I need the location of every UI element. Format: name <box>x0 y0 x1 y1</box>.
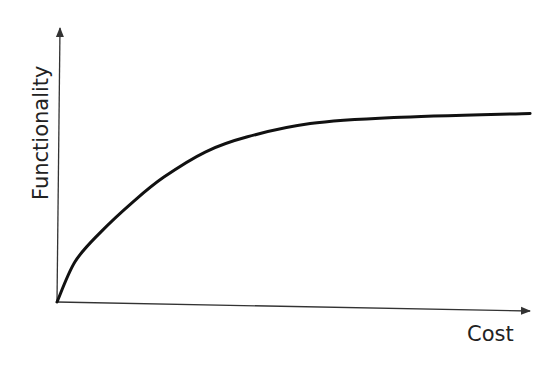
x-axis-label: Cost <box>467 322 514 346</box>
chart: Cost Functionality <box>0 0 559 369</box>
x-axis <box>57 302 530 311</box>
y-axis-label: Functionality <box>29 65 53 200</box>
series-layer <box>57 114 530 303</box>
series-line-0 <box>57 114 530 303</box>
y-axis <box>57 28 60 302</box>
